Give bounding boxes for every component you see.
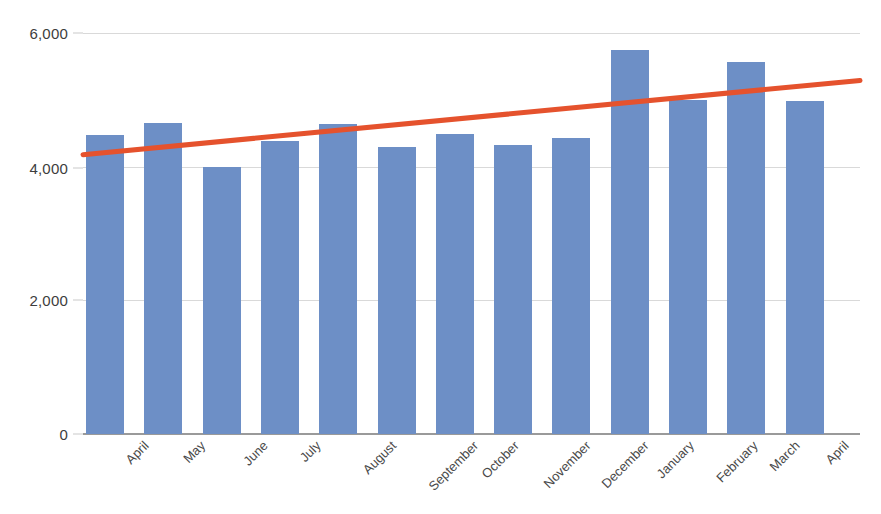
bar-january-9[interactable] bbox=[611, 50, 649, 434]
x-tick-label-9: January bbox=[653, 438, 696, 481]
x-tick-label-text: June bbox=[240, 438, 271, 469]
bar-july-3[interactable] bbox=[261, 141, 299, 434]
x-tick-label-text: January bbox=[653, 438, 696, 481]
bar-march-11[interactable] bbox=[727, 62, 765, 434]
bar-august-4[interactable] bbox=[319, 124, 357, 434]
bar-chart: 6,000 4,000 2,000 0 AprilMayJuneJulyAugu… bbox=[0, 0, 881, 514]
bar-december-8[interactable] bbox=[552, 138, 590, 434]
x-tick-label-11: March bbox=[767, 438, 803, 474]
y-tick-label: 4,000 bbox=[0, 159, 68, 176]
x-tick-label-12: April bbox=[822, 438, 851, 467]
bar-february-10[interactable] bbox=[669, 100, 707, 434]
bar-october-6[interactable] bbox=[436, 134, 474, 434]
y-tick-mark bbox=[73, 300, 83, 301]
x-tick-label-text: April bbox=[822, 438, 851, 467]
x-tick-label-text: October bbox=[478, 438, 521, 481]
bar-june-2[interactable] bbox=[203, 167, 241, 434]
x-tick-label-text: December bbox=[599, 438, 652, 491]
x-tick-label-0: April bbox=[123, 438, 152, 467]
x-tick-label-text: August bbox=[360, 438, 399, 477]
x-axis-labels: AprilMayJuneJulyAugustSeptemberOctoberNo… bbox=[83, 438, 860, 514]
plot-area bbox=[83, 33, 860, 434]
x-tick-label-text: March bbox=[767, 438, 803, 474]
x-tick-label-8: December bbox=[599, 438, 652, 491]
x-tick-label-text: April bbox=[123, 438, 152, 467]
x-tick-label-4: August bbox=[360, 438, 399, 477]
bar-september-5[interactable] bbox=[378, 147, 416, 434]
y-tick-mark bbox=[73, 434, 83, 435]
x-tick-label-text: May bbox=[180, 438, 208, 466]
x-tick-label-text: February bbox=[713, 438, 760, 485]
y-tick-mark bbox=[73, 167, 83, 168]
y-tick-label: 6,000 bbox=[0, 25, 68, 42]
bars-group bbox=[83, 33, 860, 434]
bar-may-1[interactable] bbox=[144, 123, 182, 434]
x-tick-label-text: July bbox=[297, 438, 324, 465]
x-tick-label-7: November bbox=[541, 438, 594, 491]
x-tick-label-6: October bbox=[478, 438, 521, 481]
x-tick-label-text: September bbox=[425, 438, 481, 494]
bar-november-7[interactable] bbox=[494, 145, 532, 434]
x-tick-label-1: May bbox=[180, 438, 208, 466]
x-tick-label-text: November bbox=[541, 438, 594, 491]
bar-april-0[interactable] bbox=[86, 135, 124, 434]
y-tick-label: 2,000 bbox=[0, 292, 68, 309]
x-tick-label-2: June bbox=[240, 438, 271, 469]
x-tick-label-3: July bbox=[297, 438, 324, 465]
y-tick-label: 0 bbox=[0, 426, 68, 443]
x-tick-label-10: February bbox=[713, 438, 760, 485]
y-tick-mark bbox=[73, 33, 83, 34]
x-tick-label-5: September bbox=[425, 438, 481, 494]
bar-april-12[interactable] bbox=[786, 101, 824, 434]
